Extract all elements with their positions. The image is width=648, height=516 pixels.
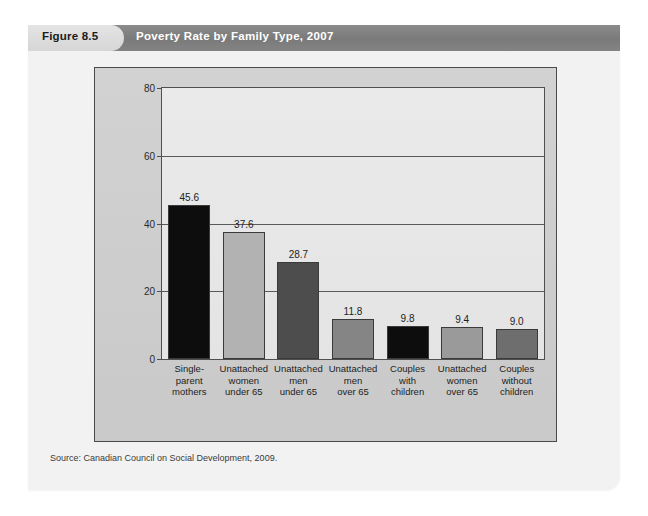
x-axis-category-label: Coupleswithchildren [390,363,425,398]
bar-value-label: 9.0 [510,316,524,327]
bar-value-label: 9.8 [401,313,415,324]
bar: 11.8Unattachedmenover 65 [332,319,374,359]
figure-header: Poverty Rate by Family Type, 2007 Figure… [28,25,620,51]
bar: 37.6Unattachedwomenunder 65 [223,232,265,359]
figure-number-label: Figure 8.5 [42,30,98,42]
bar-value-label: 28.7 [289,249,308,260]
y-axis-tick-mark [157,291,162,292]
source-note: Source: Canadian Council on Social Devel… [50,453,277,463]
y-axis-tick-label: 0 [149,354,155,365]
bar-value-label: 11.8 [344,306,363,317]
figure-number-tab: Figure 8.5 [28,25,124,51]
y-axis-tick-mark [157,359,162,360]
plot-area: 02040608045.6Single-parentmothers37.6Una… [161,87,545,360]
y-axis-tick-label: 20 [144,286,155,297]
figure-title: Poverty Rate by Family Type, 2007 [136,30,334,42]
x-axis-category-label: Single-parentmothers [172,363,206,398]
bar: 9.0Coupleswithoutchildren [496,329,538,359]
gridline [162,224,544,225]
y-axis-tick-label: 80 [144,83,155,94]
bar: 9.4Unattachedwomenover 65 [441,327,483,359]
y-axis-tick-mark [157,88,162,89]
x-axis-category-label: Unattachedwomenunder 65 [220,363,269,398]
bar-value-label: 37.6 [234,219,253,230]
figure-panel: Poverty Rate by Family Type, 2007 Figure… [28,25,620,490]
bar: 9.8Coupleswithchildren [387,326,429,359]
y-axis-tick-mark [157,224,162,225]
gridline [162,291,544,292]
y-axis-tick-mark [157,156,162,157]
x-axis-category-label: Coupleswithoutchildren [499,363,534,398]
x-axis-category-label: Unattachedmenover 65 [329,363,378,398]
x-axis-category-label: Unattachedwomenover 65 [438,363,487,398]
y-axis-tick-label: 60 [144,150,155,161]
y-axis-tick-label: 40 [144,218,155,229]
bar: 28.7Unattachedmenunder 65 [277,262,319,359]
bar-value-label: 9.4 [455,314,469,325]
chart-container: Percentage of persons living in poverty … [94,67,557,442]
bar: 45.6Single-parentmothers [168,205,210,359]
x-axis-category-label: Unattachedmenunder 65 [274,363,323,398]
bar-value-label: 45.6 [180,192,199,203]
gridline [162,156,544,157]
